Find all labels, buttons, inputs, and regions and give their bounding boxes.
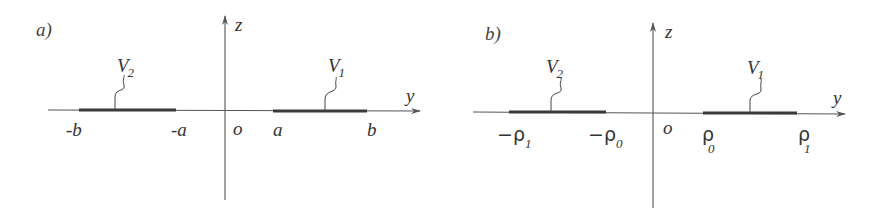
y-axis-label: y: [404, 85, 415, 106]
panel-a-label: a): [36, 19, 52, 41]
a-label: a: [273, 119, 283, 140]
minus-rho1-label: −ρ1: [497, 123, 531, 151]
v2-label: V2: [546, 56, 564, 81]
origin-label: o: [663, 117, 673, 138]
v2-label: V2: [117, 55, 135, 80]
z-axis-label: z: [664, 21, 673, 42]
panel-b: b) z y o V2 −ρ1 −ρ0 V1 ρ0 ρ1: [473, 21, 845, 208]
panel-b-label: b): [485, 23, 501, 45]
v1-leader: [325, 77, 336, 111]
b-label: b: [367, 119, 377, 140]
panel-a: a) z y o V2 -b -a V1 a b: [36, 14, 420, 200]
rho1-label: ρ1: [798, 123, 811, 156]
v1-label: V1: [328, 55, 345, 80]
diagram-canvas: a) z y o V2 -b -a V1 a b b) z y o V2 −ρ1…: [0, 0, 883, 215]
z-axis-label: z: [234, 14, 243, 35]
y-axis-label: y: [831, 87, 842, 108]
v1-leader: [750, 79, 761, 113]
minus-a-label: -a: [171, 119, 187, 140]
origin-label: o: [233, 118, 243, 139]
minus-rho0-label: −ρ0: [588, 123, 623, 151]
v2-leader: [551, 78, 561, 112]
minus-b-label: -b: [66, 119, 82, 140]
v2-leader: [115, 75, 124, 110]
rho0-label: ρ0: [702, 123, 715, 156]
v1-label: V1: [747, 57, 764, 82]
